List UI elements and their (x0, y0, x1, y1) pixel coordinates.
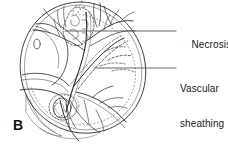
label-necrosis: Necrosis (180, 27, 228, 62)
vessel-disc-exit (60, 100, 79, 141)
lesion-finger-4 (64, 6, 66, 27)
sheathing-patch-3 (100, 63, 125, 66)
vessel-trunk-main (66, 12, 87, 112)
sheathing-patch-4 (112, 70, 134, 72)
figure-panel-b: Necrosis Vascular sheathing B (0, 0, 228, 147)
sheathing-patch-2 (108, 55, 132, 60)
necrosis-patch-outline (63, 7, 94, 45)
vessel-branch-ir-twig-2 (100, 98, 123, 103)
label-vascular-sheathing-line1: Vascular (180, 83, 224, 95)
label-vascular-sheathing-line2: sheathing (180, 118, 224, 130)
lesion-finger-2 (99, 3, 101, 26)
vessel-branch-ir-twig-1 (92, 86, 113, 98)
lesion-spot-left (34, 39, 40, 49)
label-vascular-sheathing: Vascular sheathing (180, 60, 224, 147)
necrosis-mottle-4 (82, 33, 88, 42)
fundus-rim-lower-left (26, 95, 62, 136)
fundus-lower-left-arc (30, 100, 56, 133)
label-necrosis-text: Necrosis (192, 39, 228, 50)
vessel-branch-superior-right-2 (90, 31, 135, 46)
vessel-twig-ur-3 (104, 15, 110, 30)
panel-letter-b: B (13, 117, 23, 133)
vessel-branch-inferior-right-2 (78, 96, 125, 128)
necrosis-mottle-1 (71, 15, 80, 26)
